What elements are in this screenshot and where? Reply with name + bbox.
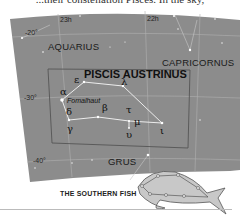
divider-rule xyxy=(0,209,232,210)
star-label-tau: τ xyxy=(126,104,132,115)
constellation-label-capricornus: CAPRICORNUS xyxy=(162,57,234,68)
dec-label-20: -20° xyxy=(25,29,38,36)
star-label-iota: ι xyxy=(160,125,164,136)
dec-label-30: -30° xyxy=(24,94,37,101)
ra-label-22h: 22h xyxy=(147,15,159,22)
star-label-gamma: γ xyxy=(67,123,73,134)
star-label-delta: δ xyxy=(66,106,72,117)
star-label-lambda: λ xyxy=(121,76,127,87)
star-label-upsilon: υ xyxy=(126,129,132,140)
figure-caption: THE SOUTHERN FISH xyxy=(60,190,137,197)
chart-title: PISCIS AUSTRINUS xyxy=(84,68,187,80)
star-label-epsilon: ε xyxy=(74,74,79,85)
ra-label-23h: 23h xyxy=(60,16,72,23)
dec-label-40: -40° xyxy=(33,157,46,164)
star-name-fomalhaut: Fomalhaut xyxy=(67,97,100,104)
constellation-label-aquarius: AQUARIUS xyxy=(48,41,99,52)
constellation-label-grus: GRUS xyxy=(108,156,136,167)
southern-fish-illustration xyxy=(138,171,226,214)
star-label-alpha: α xyxy=(60,86,67,97)
star-label-mu: μ xyxy=(134,116,141,127)
star-label-beta: β xyxy=(102,102,108,113)
